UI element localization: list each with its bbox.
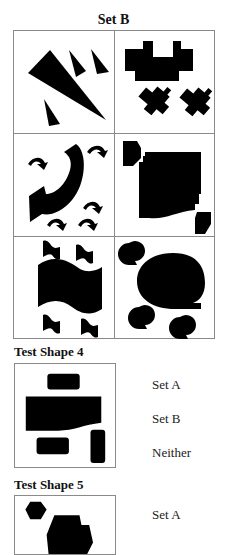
blocky-crosses-shape-icon	[115, 31, 216, 134]
wavy-flags-shape-icon	[14, 237, 115, 340]
test-shape-4-option-set-b[interactable]: Set B	[152, 411, 181, 426]
stepped-squares-shape-icon	[115, 134, 216, 237]
grid-cell-wavy-flags	[14, 237, 115, 340]
curved-arrows-shape-icon	[14, 134, 115, 237]
triangles-shape-icon	[14, 31, 115, 134]
speech-bubbles-shape-icon	[115, 237, 216, 340]
test-shape-5-box	[14, 495, 116, 555]
grid-cell-triangles	[14, 31, 115, 134]
grid-cell-blocky-crosses	[115, 31, 216, 134]
test-shape-5-label: Test Shape 5	[14, 477, 84, 492]
grid-cell-stepped-squares	[115, 134, 216, 237]
set-b-grid	[13, 30, 215, 339]
grid-cell-curved-arrows	[14, 134, 115, 237]
grid-cell-speech-bubbles	[115, 237, 216, 340]
test-shape-5-figure-icon	[15, 496, 115, 554]
test-shape-5-option-set-a[interactable]: Set A	[152, 507, 181, 522]
test-shape-4-label: Test Shape 4	[14, 344, 84, 359]
test-shape-4-option-set-a[interactable]: Set A	[152, 377, 181, 392]
set-b-title: Set B	[0, 12, 227, 28]
test-shape-4-option-neither[interactable]: Neither	[152, 445, 191, 460]
test-shape-4-figure-icon	[15, 364, 115, 467]
test-shape-4-box	[14, 363, 116, 468]
